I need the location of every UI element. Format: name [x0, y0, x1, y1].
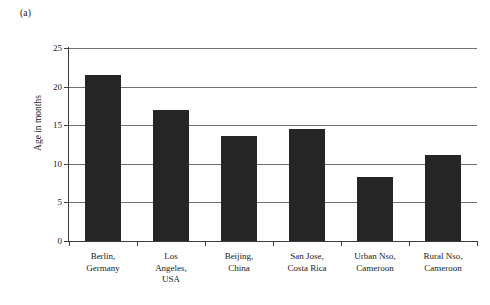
- x-category-label-line: Los: [137, 251, 205, 263]
- x-category-label-line: Costa Rica: [273, 263, 341, 275]
- x-category-label: Berlin,Germany: [69, 251, 137, 274]
- x-tick-mark: [69, 241, 70, 246]
- x-category-label-line: Rural Nso,: [409, 251, 477, 263]
- x-category-label: San Jose,Costa Rica: [273, 251, 341, 274]
- x-category-label-line: Cameroon: [341, 263, 409, 275]
- y-tick-mark: [64, 164, 69, 165]
- y-axis-title: Age in months: [33, 63, 43, 183]
- x-tick-mark: [205, 241, 206, 246]
- y-tick-label: 20: [53, 82, 62, 92]
- x-category-label-line: San Jose,: [273, 251, 341, 263]
- x-category-label-line: Berlin,: [69, 251, 137, 263]
- bar: [221, 136, 257, 241]
- x-category-label-line: Beijing,: [205, 251, 273, 263]
- x-category-label: LosAngeles,USA: [137, 251, 205, 286]
- y-tick-label: 25: [53, 43, 62, 53]
- y-tick-mark: [64, 48, 69, 49]
- x-tick-mark: [477, 241, 478, 246]
- x-category-label-line: Cameroon: [409, 263, 477, 275]
- plot-area: 0510152025: [69, 48, 477, 241]
- gridline-20: [69, 87, 477, 88]
- bar: [357, 177, 393, 241]
- x-category-label-line: Germany: [69, 263, 137, 275]
- bar: [153, 110, 189, 241]
- x-tick-mark: [341, 241, 342, 246]
- y-tick-mark: [64, 202, 69, 203]
- x-tick-mark: [273, 241, 274, 246]
- x-category-label: Rural Nso,Cameroon: [409, 251, 477, 274]
- x-category-label-line: Urban Nso,: [341, 251, 409, 263]
- x-tick-mark: [137, 241, 138, 246]
- gridline-25: [69, 48, 477, 49]
- x-tick-mark: [409, 241, 410, 246]
- x-category-label-line: Angeles,: [137, 263, 205, 275]
- x-category-label-line: China: [205, 263, 273, 275]
- panel-label: (a): [20, 8, 31, 18]
- y-tick-label: 15: [53, 120, 62, 130]
- bar: [85, 75, 121, 241]
- y-tick-mark: [64, 125, 69, 126]
- x-category-label-line: USA: [137, 274, 205, 286]
- bar: [289, 129, 325, 241]
- bar: [425, 155, 461, 241]
- y-tick-label: 0: [58, 236, 63, 246]
- figure-panel-a: (a) Age in months 0510152025 Berlin,Germ…: [0, 0, 490, 305]
- gridline-5: [69, 202, 477, 203]
- gridline-15: [69, 125, 477, 126]
- x-category-label: Urban Nso,Cameroon: [341, 251, 409, 274]
- y-tick-mark: [64, 87, 69, 88]
- y-tick-label: 5: [58, 197, 63, 207]
- x-category-label: Beijing,China: [205, 251, 273, 274]
- gridline-10: [69, 164, 477, 165]
- y-tick-label: 10: [53, 159, 62, 169]
